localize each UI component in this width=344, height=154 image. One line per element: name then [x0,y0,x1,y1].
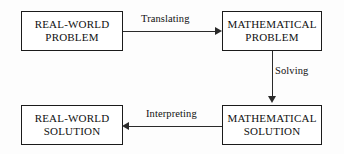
modelling-cycle-diagram: REAL-WORLD PROBLEM MATHEMATICAL PROBLEM … [0,0,344,154]
node-mathematical-problem-line1: MATHEMATICAL [227,18,316,32]
edge-label-solving: Solving [275,65,308,76]
edge-interpreting-line [128,126,222,127]
node-mathematical-solution-line1: MATHEMATICAL [227,112,316,126]
node-real-world-problem-line1: REAL-WORLD [35,18,110,32]
edge-translating-line [123,31,217,32]
node-mathematical-problem-line2: PROBLEM [245,31,298,45]
node-mathematical-solution-line2: SOLUTION [244,125,301,139]
edge-label-interpreting: Interpreting [146,108,197,119]
node-real-world-problem: REAL-WORLD PROBLEM [21,11,123,51]
node-real-world-solution-line2: SOLUTION [44,125,101,139]
node-real-world-solution-line1: REAL-WORLD [35,112,110,126]
node-mathematical-solution: MATHEMATICAL SOLUTION [222,105,322,145]
arrow-down-icon-solving [268,96,276,103]
node-real-world-solution: REAL-WORLD SOLUTION [21,105,123,145]
edge-solving-line [272,51,273,98]
arrow-right-icon-translating [215,27,222,35]
arrow-left-icon-interpreting [122,122,129,130]
node-real-world-problem-line2: PROBLEM [45,31,98,45]
edge-label-translating: Translating [141,13,190,24]
node-mathematical-problem: MATHEMATICAL PROBLEM [222,11,322,51]
